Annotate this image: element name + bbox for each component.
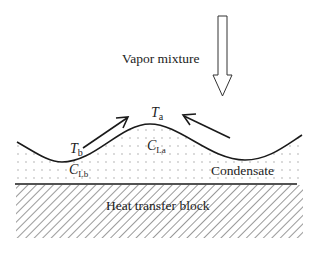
condensation-diagram: Vapor mixture Ta Tb CLa CLb Condensate H… bbox=[0, 0, 314, 253]
heat-transfer-block-label: Heat transfer block bbox=[106, 198, 210, 213]
condensate-label: Condensate bbox=[211, 163, 274, 178]
vapor-flow-arrow-icon bbox=[213, 16, 232, 96]
temperature-trough-label: Tb bbox=[70, 141, 83, 158]
right-flow-arrow-icon bbox=[183, 114, 230, 138]
temperature-peak-label: Ta bbox=[151, 105, 164, 122]
vapor-mixture-label: Vapor mixture bbox=[122, 51, 200, 66]
